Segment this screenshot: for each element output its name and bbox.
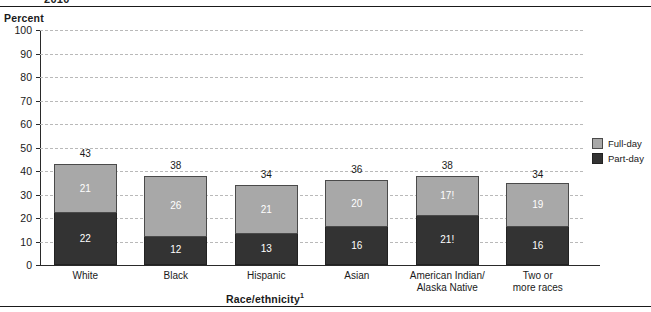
x-axis-category-label: Two ormore races bbox=[493, 270, 584, 293]
x-axis-category-label: Asian bbox=[312, 270, 403, 282]
gridline bbox=[40, 148, 583, 149]
bar-segment-full-day[interactable]: 19 bbox=[506, 183, 569, 228]
gridline bbox=[40, 54, 583, 55]
gridline bbox=[40, 101, 583, 102]
gridline bbox=[40, 30, 583, 31]
bar-segment-part-day[interactable]: 22 bbox=[54, 213, 117, 265]
y-axis-tick-mark bbox=[36, 242, 40, 243]
bar-segment-full-day[interactable]: 21 bbox=[54, 164, 117, 213]
y-axis-tick-mark bbox=[36, 124, 40, 125]
legend-item-full[interactable]: Full-day bbox=[592, 137, 644, 150]
x-axis-category-label-line: Hispanic bbox=[221, 270, 312, 282]
bar-value-label-part-day: 22 bbox=[55, 234, 116, 244]
bar-segment-full-day[interactable]: 20 bbox=[325, 180, 388, 227]
legend-swatch-icon bbox=[592, 153, 603, 164]
y-axis-tick-label: 80 bbox=[20, 72, 32, 83]
legend-item-label: Full-day bbox=[608, 139, 642, 149]
x-axis-category-label-line: Two or bbox=[493, 270, 584, 282]
bar-segment-part-day[interactable]: 16 bbox=[325, 227, 388, 265]
y-axis-tick-label: 10 bbox=[20, 236, 32, 247]
x-axis-title-footnote-marker: 1 bbox=[300, 292, 304, 299]
y-axis-tick-mark bbox=[36, 101, 40, 102]
y-axis-tick-label: 70 bbox=[20, 95, 32, 106]
gridline bbox=[40, 77, 583, 78]
gridline bbox=[40, 124, 583, 125]
y-axis-tick-mark bbox=[36, 171, 40, 172]
legend-item-label: Part-day bbox=[608, 154, 644, 164]
bar-total-label: 38 bbox=[144, 161, 207, 171]
cropped-chart-title: 2010 bbox=[44, 0, 70, 5]
bar-total-label: 34 bbox=[235, 170, 298, 180]
x-axis-category-label-line: American Indian/ bbox=[402, 270, 493, 282]
chart-legend: Full-dayPart-day bbox=[592, 137, 644, 167]
bar-segment-part-day[interactable]: 13 bbox=[235, 234, 298, 265]
legend-swatch-icon bbox=[592, 138, 603, 149]
y-axis-tick-label: 100 bbox=[14, 25, 32, 36]
bar-value-label-part-day: 21! bbox=[417, 235, 478, 245]
top-divider-rule bbox=[0, 6, 651, 7]
x-axis-category-label-line: White bbox=[40, 270, 131, 282]
y-axis-tick-mark bbox=[36, 265, 40, 266]
stacked-bar[interactable]: 212243 bbox=[54, 164, 117, 265]
bar-value-label-part-day: 16 bbox=[507, 241, 568, 251]
bar-total-label: 38 bbox=[416, 161, 479, 171]
stacked-bar[interactable]: 17!21!38 bbox=[416, 176, 479, 265]
bar-value-label-full-day: 17! bbox=[417, 191, 478, 201]
stacked-bar[interactable]: 261238 bbox=[144, 176, 207, 265]
bar-total-label: 36 bbox=[325, 165, 388, 175]
bar-segment-full-day[interactable]: 21 bbox=[235, 185, 298, 234]
y-axis-tick-mark bbox=[36, 30, 40, 31]
bar-value-label-full-day: 20 bbox=[326, 199, 387, 209]
bar-value-label-part-day: 12 bbox=[145, 245, 206, 255]
x-axis-category-label-line: Black bbox=[131, 270, 222, 282]
y-axis-tick-mark bbox=[36, 54, 40, 55]
bar-value-label-full-day: 21 bbox=[236, 205, 297, 215]
x-axis-category-label: American Indian/Alaska Native bbox=[402, 270, 493, 293]
bar-segment-part-day[interactable]: 16 bbox=[506, 227, 569, 265]
gridline bbox=[40, 171, 583, 172]
x-axis-line bbox=[40, 265, 600, 266]
bar-segment-part-day[interactable]: 21! bbox=[416, 216, 479, 265]
y-axis-tick-mark bbox=[36, 195, 40, 196]
bar-total-label: 34 bbox=[506, 170, 569, 180]
y-axis-tick-label: 20 bbox=[20, 213, 32, 224]
x-axis-category-label-line: Asian bbox=[312, 270, 403, 282]
y-axis-tick-label: 40 bbox=[20, 166, 32, 177]
bar-value-label-part-day: 16 bbox=[326, 241, 387, 251]
gridline bbox=[40, 195, 583, 196]
stacked-bar[interactable]: 211334 bbox=[235, 185, 298, 265]
x-axis-category-label: White bbox=[40, 270, 131, 282]
bar-value-label-full-day: 26 bbox=[145, 201, 206, 211]
bar-segment-full-day[interactable]: 17! bbox=[416, 176, 479, 216]
y-axis-title: Percent bbox=[4, 12, 44, 24]
bar-value-label-part-day: 13 bbox=[236, 244, 297, 254]
plot-area: 0102030405060708090100 21224326123821133… bbox=[40, 30, 583, 265]
y-axis-tick-label: 50 bbox=[20, 142, 32, 153]
y-axis-tick-mark bbox=[36, 77, 40, 78]
legend-item-part[interactable]: Part-day bbox=[592, 152, 644, 165]
bar-value-label-full-day: 19 bbox=[507, 200, 568, 210]
y-axis-tick-mark bbox=[36, 148, 40, 149]
x-axis-title-text: Race/ethnicity bbox=[226, 293, 300, 305]
y-axis-tick-label: 0 bbox=[26, 260, 32, 271]
bar-value-label-full-day: 21 bbox=[55, 184, 116, 194]
stacked-bar[interactable]: 201636 bbox=[325, 180, 388, 265]
y-axis-tick-mark bbox=[36, 218, 40, 219]
gridline bbox=[40, 218, 583, 219]
bar-segment-full-day[interactable]: 26 bbox=[144, 176, 207, 237]
y-axis-tick-label: 30 bbox=[20, 189, 32, 200]
stacked-bar[interactable]: 191634 bbox=[506, 185, 569, 265]
bar-segment-part-day[interactable]: 12 bbox=[144, 237, 207, 265]
y-axis-tick-label: 90 bbox=[20, 48, 32, 59]
x-axis-title: Race/ethnicity1 bbox=[0, 292, 530, 305]
bar-total-label: 43 bbox=[54, 149, 117, 159]
x-axis-category-label: Black bbox=[131, 270, 222, 282]
x-axis-category-label: Hispanic bbox=[221, 270, 312, 282]
y-axis-tick-label: 60 bbox=[20, 119, 32, 130]
gridline bbox=[40, 242, 583, 243]
bottom-divider-rule bbox=[0, 306, 651, 307]
